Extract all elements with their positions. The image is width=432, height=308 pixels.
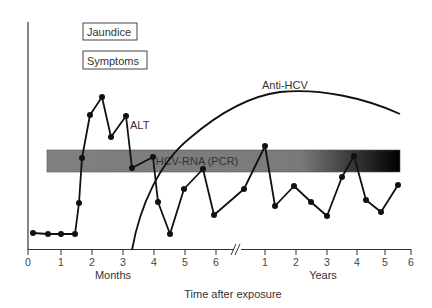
tick-label: 5: [182, 256, 188, 268]
month-tick-labels: 0 1 2 3 4 5 6: [25, 256, 219, 268]
tick-label: 4: [151, 256, 157, 268]
jaundice-box: Jaundice: [83, 23, 137, 40]
x-axis-title: Time after exposure: [184, 288, 281, 300]
tick-label: 3: [324, 256, 330, 268]
tick-label: 5: [382, 256, 388, 268]
jaundice-label: Jaundice: [87, 26, 131, 38]
tick-label: 0: [25, 256, 31, 268]
years-label: Years: [309, 269, 337, 281]
alt-label: ALT: [130, 119, 150, 131]
tick-label: 3: [120, 256, 126, 268]
symptoms-box: Symptoms: [83, 51, 147, 69]
tick-label: 6: [213, 256, 219, 268]
tick-label: 2: [293, 256, 299, 268]
months-label: Months: [95, 269, 132, 281]
symptoms-label: Symptoms: [87, 55, 139, 67]
tick-label: 4: [354, 256, 360, 268]
year-tick-labels: 1 2 3 4 5 6: [262, 256, 414, 268]
anti-hcv-label: Anti-HCV: [262, 79, 309, 91]
tick-label: 1: [58, 256, 64, 268]
tick-label: 1: [262, 256, 268, 268]
tick-label: 6: [408, 256, 414, 268]
hcv-infection-chart: 0 1 2 3 4 5 6 1 2 3 4 5 6 Months Years T…: [0, 0, 432, 308]
tick-label: 2: [89, 256, 95, 268]
